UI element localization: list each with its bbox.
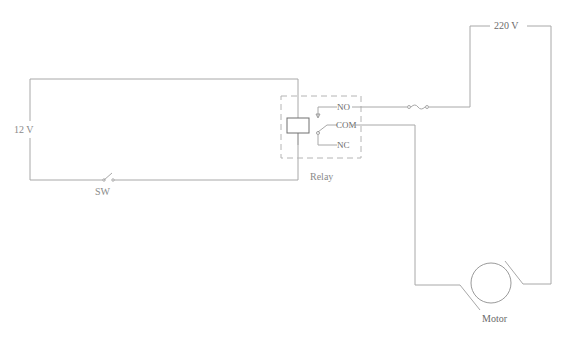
switch-sw-icon xyxy=(103,173,114,181)
fuse-to-supply-wire xyxy=(429,26,490,107)
supply-return-wire xyxy=(505,26,551,284)
relay-coil-icon xyxy=(287,118,309,133)
label-motor: Motor xyxy=(482,313,508,324)
relay-com-armature xyxy=(318,125,337,132)
com-to-motor-wire xyxy=(352,125,480,310)
label-no: NO xyxy=(337,102,350,112)
power-circuit: 220 V Motor xyxy=(352,20,551,324)
fuse-icon xyxy=(408,105,429,109)
label-220v: 220 V xyxy=(494,20,519,31)
label-relay: Relay xyxy=(310,171,333,182)
control-bottom-wire xyxy=(114,133,298,180)
control-circuit: 12 V SW xyxy=(14,79,298,197)
motor-icon xyxy=(471,263,511,303)
label-nc: NC xyxy=(337,140,350,150)
circuit-diagram: 12 V SW NO COM NC Relay 220 V xyxy=(0,0,566,341)
control-top-wire xyxy=(30,79,298,121)
relay: NO COM NC Relay xyxy=(281,96,361,182)
relay-nc-contact xyxy=(318,135,337,145)
relay-no-contact xyxy=(318,107,337,117)
control-left-bottom-wire xyxy=(30,138,103,180)
label-sw: SW xyxy=(95,186,111,197)
label-12v: 12 V xyxy=(14,124,34,135)
